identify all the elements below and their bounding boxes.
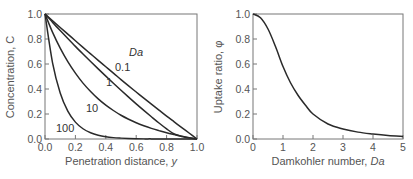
x-tick-label: 4 — [370, 141, 376, 153]
x-tick-label: 3 — [340, 141, 346, 153]
right-x-axis-label: Damkohler number, Da — [271, 155, 384, 167]
y-tick-label: 0.8 — [235, 33, 250, 45]
figure: 0.00.20.40.60.81.0 0.00.20.40.60.81.0 Co… — [0, 0, 413, 179]
left-y-ticks: 0.00.20.40.60.81.0 — [27, 8, 49, 145]
y-tick-label: 1.0 — [235, 8, 250, 20]
y-tick-label: 0.4 — [27, 83, 42, 95]
series-line-100 — [45, 14, 197, 139]
curve-label-100: 100 — [56, 122, 74, 134]
uptake-ratio-chart: 0.00.20.40.60.81.0 012345 Uptake ratio, … — [212, 8, 406, 167]
series-line-φ — [253, 14, 403, 137]
curve-label-1: 1 — [106, 76, 112, 88]
x-tick-label: 0.4 — [98, 141, 113, 153]
right-y-axis-label: Uptake ratio, φ — [212, 41, 224, 114]
series-line-0.1 — [45, 14, 197, 139]
curve-label-10: 10 — [86, 102, 98, 114]
x-tick-label: 0.8 — [159, 141, 174, 153]
x-tick-label: 0.0 — [38, 141, 53, 153]
y-tick-label: 0.6 — [27, 58, 42, 70]
concentration-chart: 0.00.20.40.60.81.0 0.00.20.40.60.81.0 Co… — [4, 8, 204, 167]
x-tick-label: 2 — [310, 141, 316, 153]
left-plot-frame — [45, 14, 197, 139]
x-tick-label: 0 — [250, 141, 256, 153]
right-plot-frame — [253, 14, 403, 139]
y-tick-label: 0.8 — [27, 33, 42, 45]
left-y-axis-label: Concentration, C — [4, 36, 16, 119]
x-tick-label: 1.0 — [190, 141, 205, 153]
x-tick-label: 5 — [400, 141, 406, 153]
series-line-10 — [45, 14, 197, 139]
y-tick-label: 1.0 — [27, 8, 42, 20]
right-y-ticks: 0.00.20.40.60.81.0 — [235, 8, 257, 145]
y-tick-label: 0.6 — [235, 58, 250, 70]
right-x-ticks: 012345 — [250, 135, 406, 153]
y-tick-label: 0.0 — [235, 133, 250, 145]
y-tick-label: 0.4 — [235, 83, 250, 95]
right-curves — [253, 14, 403, 137]
legend-title-da: Da — [129, 46, 143, 58]
y-tick-label: 0.2 — [235, 108, 250, 120]
left-curves — [45, 14, 197, 139]
x-tick-label: 0.2 — [68, 141, 83, 153]
y-tick-label: 0.2 — [27, 108, 42, 120]
left-x-axis-label: Penetration distance, y — [65, 155, 178, 167]
series-line-1 — [45, 14, 197, 139]
x-tick-label: 1 — [280, 141, 286, 153]
x-tick-label: 0.6 — [129, 141, 144, 153]
curve-label-0.1: 0.1 — [115, 61, 130, 73]
